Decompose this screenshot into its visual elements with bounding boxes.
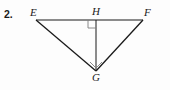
vertex-label-f: F	[144, 7, 151, 18]
vertex-label-g: G	[92, 72, 100, 83]
segment-eg	[36, 20, 96, 71]
right-angle-mark-h	[88, 20, 96, 28]
segment-fg	[96, 20, 143, 71]
vertex-label-h: H	[92, 6, 100, 17]
vertex-label-e: E	[30, 7, 37, 18]
geometry-figure-container: 2. E H F G	[0, 0, 170, 90]
